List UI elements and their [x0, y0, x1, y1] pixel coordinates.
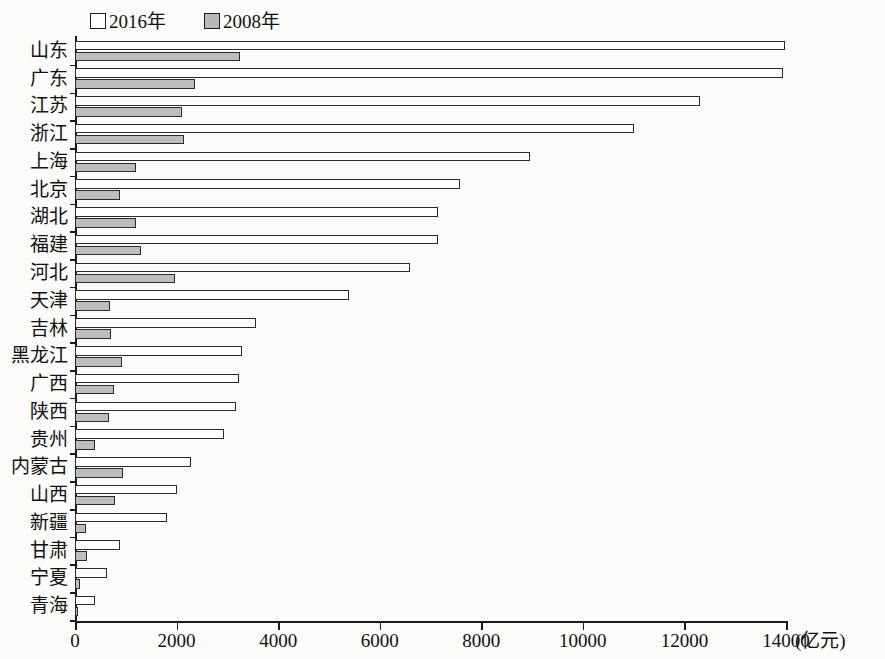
bar-2016-广东	[75, 68, 783, 78]
legend-item-2008: 2008年	[204, 12, 280, 31]
bar-2016-新疆	[75, 513, 167, 523]
x-axis-unit-label: (亿元)	[795, 631, 846, 651]
x-axis-label-8000: 8000	[462, 631, 500, 651]
bar-2008-浙江	[75, 135, 184, 145]
y-axis-tick	[70, 148, 76, 150]
bar-2008-黑龙江	[75, 357, 122, 367]
y-axis-tick	[70, 592, 76, 594]
bar-2008-青海	[75, 607, 78, 617]
x-axis-tick	[684, 623, 686, 630]
y-axis-label-天津: 天津	[30, 291, 68, 310]
bar-2016-广西	[75, 374, 239, 384]
y-axis-label-河北: 河北	[30, 263, 68, 282]
y-axis-label-江苏: 江苏	[30, 96, 68, 115]
bar-chart: 2016年 2008年 山东广东江苏浙江上海北京湖北福建河北天津吉林黑龙江广西陕…	[0, 0, 885, 659]
bar-2016-北京	[75, 179, 460, 189]
legend-swatch-2008	[204, 13, 220, 29]
y-axis-tick	[70, 176, 76, 178]
y-axis-label-浙江: 浙江	[30, 124, 68, 143]
plot-area	[75, 38, 786, 621]
x-axis-tick	[583, 623, 585, 630]
y-axis-tick	[70, 120, 76, 122]
bar-2008-天津	[75, 301, 110, 311]
bar-2016-河北	[75, 263, 410, 273]
y-axis-tick	[70, 620, 76, 622]
x-axis-label-0: 0	[70, 631, 80, 651]
bar-2016-贵州	[75, 429, 224, 439]
bar-2016-内蒙古	[75, 457, 191, 467]
y-axis-tick	[70, 93, 76, 95]
y-axis-label-福建: 福建	[30, 235, 68, 254]
y-axis-label-陕西: 陕西	[30, 402, 68, 421]
x-axis-ticks: 02000400060008000100001200014000	[75, 623, 788, 653]
x-axis-tick	[786, 623, 788, 630]
y-axis-category-labels: 山东广东江苏浙江上海北京湖北福建河北天津吉林黑龙江广西陕西贵州内蒙古山西新疆甘肃…	[0, 38, 71, 621]
bar-2016-浙江	[75, 124, 634, 134]
bar-2008-新疆	[75, 524, 86, 534]
y-axis-tick	[70, 564, 76, 566]
x-axis-label-4000: 4000	[259, 631, 297, 651]
y-axis-label-黑龙江: 黑龙江	[11, 346, 68, 365]
bar-2016-山西	[75, 485, 177, 495]
y-axis-label-湖北: 湖北	[30, 207, 68, 226]
bar-2008-贵州	[75, 440, 95, 450]
bar-2016-吉林	[75, 318, 256, 328]
bar-2008-宁夏	[75, 579, 80, 589]
bar-2016-山东	[75, 41, 785, 51]
x-axis-tick	[177, 623, 179, 630]
y-axis-label-上海: 上海	[30, 152, 68, 171]
bar-2008-吉林	[75, 329, 111, 339]
bar-2008-山东	[75, 52, 240, 62]
x-axis-tick	[380, 623, 382, 630]
y-axis-label-内蒙古: 内蒙古	[11, 457, 68, 476]
x-axis-tick	[481, 623, 483, 630]
y-axis-label-广西: 广西	[30, 374, 68, 393]
y-axis-label-甘肃: 甘肃	[30, 541, 68, 560]
y-axis-label-北京: 北京	[30, 180, 68, 199]
y-axis-label-山西: 山西	[30, 485, 68, 504]
bar-2016-湖北	[75, 207, 438, 217]
y-axis-tick	[70, 204, 76, 206]
bar-2016-上海	[75, 152, 530, 162]
bar-2016-宁夏	[75, 568, 107, 578]
x-axis-label-2000: 2000	[158, 631, 196, 651]
bar-2008-上海	[75, 163, 136, 173]
bar-2008-陕西	[75, 413, 109, 423]
y-axis-tick	[70, 315, 76, 317]
bar-2008-山西	[75, 496, 115, 506]
bar-2008-广西	[75, 385, 114, 395]
bar-2008-河北	[75, 274, 175, 284]
bar-2008-福建	[75, 246, 141, 256]
y-axis-tick	[70, 537, 76, 539]
y-axis-tick	[70, 65, 76, 67]
x-axis-label-10000: 10000	[559, 631, 607, 651]
x-axis-label-6000: 6000	[361, 631, 399, 651]
x-axis-tick	[75, 623, 77, 630]
y-axis-label-新疆: 新疆	[30, 513, 68, 532]
y-axis-label-青海: 青海	[30, 596, 68, 615]
y-axis-label-宁夏: 宁夏	[30, 568, 68, 587]
bar-2008-甘肃	[75, 551, 87, 561]
bar-2016-黑龙江	[75, 346, 242, 356]
bar-2016-甘肃	[75, 540, 120, 550]
y-axis-label-山东: 山东	[30, 41, 68, 60]
bar-2008-内蒙古	[75, 468, 123, 478]
y-axis-tick	[70, 287, 76, 289]
y-axis-label-吉林: 吉林	[30, 319, 68, 338]
bar-2008-广东	[75, 79, 195, 89]
legend-label-2008: 2008年	[223, 12, 280, 31]
bar-2016-青海	[75, 596, 95, 606]
y-axis-tick	[70, 259, 76, 261]
x-axis-tick	[278, 623, 280, 630]
bar-2008-北京	[75, 190, 120, 200]
bar-2016-陕西	[75, 402, 236, 412]
bar-2008-江苏	[75, 107, 182, 117]
bar-2016-天津	[75, 290, 349, 300]
y-axis-tick	[70, 453, 76, 455]
legend-label-2016: 2016年	[109, 12, 166, 31]
y-axis-tick	[70, 481, 76, 483]
y-axis-tick	[70, 426, 76, 428]
legend-item-2016: 2016年	[90, 12, 166, 31]
legend-swatch-2016	[90, 13, 106, 29]
y-axis-label-广东: 广东	[30, 69, 68, 88]
